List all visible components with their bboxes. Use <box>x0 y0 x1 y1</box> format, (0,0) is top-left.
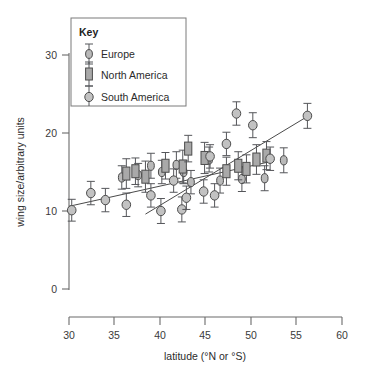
x-tick-label-45: 45 <box>199 329 211 341</box>
marker-small-circle <box>261 174 268 183</box>
marker-small-circle <box>188 178 195 187</box>
marker-large-circle <box>232 109 241 118</box>
x-axis-title: latitude (°N or °S) <box>164 350 246 362</box>
series-south-america <box>67 102 311 224</box>
data-point[interactable] <box>184 135 192 162</box>
data-point[interactable] <box>157 199 166 224</box>
data-points-group <box>67 102 311 224</box>
chart-figure: 30 20 10 0 wing size/arbitrary units 30 … <box>0 0 367 371</box>
marker-large-circle <box>169 176 178 185</box>
legend-marker-europe <box>86 50 93 59</box>
data-point[interactable] <box>122 159 130 189</box>
marker-small-circle <box>148 161 155 170</box>
marker-square <box>223 165 230 178</box>
marker-large-circle <box>122 200 131 209</box>
y-tick-label-0: 0 <box>51 283 57 295</box>
marker-large-circle <box>303 111 312 120</box>
data-point[interactable] <box>232 102 241 125</box>
marker-large-circle <box>67 206 76 215</box>
marker-large-circle <box>199 187 208 196</box>
marker-square <box>123 167 130 180</box>
marker-square <box>243 162 250 175</box>
legend: Key Europe North America South America <box>71 18 186 106</box>
marker-large-circle <box>266 154 275 163</box>
marker-square <box>142 170 149 183</box>
x-tick-label-40: 40 <box>154 329 166 341</box>
x-tick-label-50: 50 <box>245 329 257 341</box>
marker-square <box>235 159 242 172</box>
marker-square <box>185 142 192 155</box>
legend-label-europe: Europe <box>101 48 135 60</box>
data-point[interactable] <box>280 148 288 173</box>
marker-large-circle <box>182 193 191 202</box>
scatter-plot-svg: 30 20 10 0 wing size/arbitrary units 30 … <box>0 0 367 371</box>
data-point[interactable] <box>210 184 219 207</box>
y-tick-label-20: 20 <box>45 127 57 139</box>
marker-large-circle <box>249 121 258 130</box>
marker-large-circle <box>147 191 156 200</box>
marker-square <box>162 159 169 172</box>
data-point[interactable] <box>122 193 131 216</box>
data-point[interactable] <box>199 180 208 203</box>
y-tick-label-10: 10 <box>45 205 57 217</box>
x-tick-label-55: 55 <box>290 329 302 341</box>
legend-title: Key <box>79 26 98 38</box>
marker-square <box>253 153 260 166</box>
data-point[interactable] <box>222 132 231 155</box>
marker-small-circle <box>280 156 287 165</box>
marker-square <box>132 165 139 178</box>
marker-large-circle <box>206 152 215 161</box>
x-tick-label-60: 60 <box>336 329 348 341</box>
y-tick-label-30: 30 <box>45 49 57 61</box>
legend-marker-south-america <box>85 92 93 101</box>
y-axis-title: wing size/arbitrary units <box>14 117 26 228</box>
x-tick-label-30: 30 <box>63 329 75 341</box>
legend-label-south-america: South America <box>101 91 169 103</box>
marker-large-circle <box>222 139 231 148</box>
legend-marker-north-america <box>86 68 93 80</box>
data-point[interactable] <box>303 103 312 128</box>
data-point[interactable] <box>187 170 195 193</box>
x-axis: 30 35 40 45 50 55 60 latitude (°N or °S) <box>63 317 348 362</box>
marker-large-circle <box>101 195 110 204</box>
legend-label-north-america: North America <box>101 69 168 81</box>
marker-large-circle <box>210 191 219 200</box>
x-tick-label-35: 35 <box>108 329 120 341</box>
data-point[interactable] <box>101 188 110 211</box>
marker-large-circle <box>157 206 166 215</box>
marker-large-circle <box>87 188 96 197</box>
y-axis: 30 20 10 0 wing size/arbitrary units <box>14 49 69 295</box>
data-point[interactable] <box>249 113 258 138</box>
